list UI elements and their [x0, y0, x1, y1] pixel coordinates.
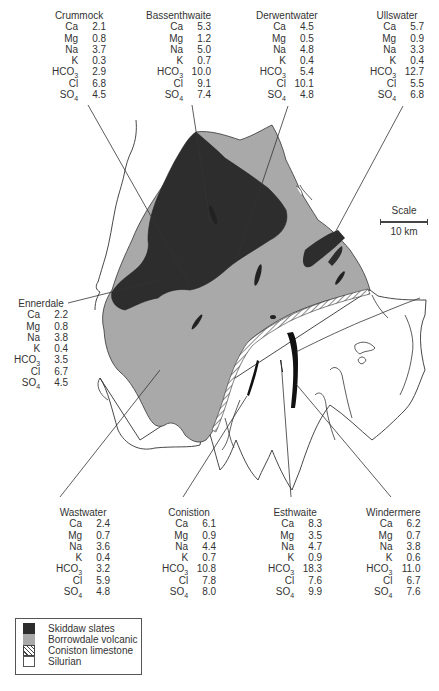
- ca-value: 6.2: [400, 518, 420, 529]
- na-value: 5.0: [191, 44, 211, 55]
- na-value: 4.7: [302, 541, 322, 552]
- so4-value: 4.8: [294, 89, 314, 100]
- na-value: 4.4: [196, 541, 216, 552]
- na-value: 3.8: [48, 332, 68, 343]
- k-value: 0.6: [400, 552, 420, 563]
- legend-item-borrowdale: Borrowdale volcanic: [23, 634, 141, 645]
- station-name: Derwentwater: [256, 10, 318, 21]
- hco3-value: 3.5: [48, 354, 68, 365]
- ca-value: 8.3: [302, 518, 322, 529]
- mg-value: 0.9: [196, 530, 216, 541]
- cl-value: 5.9: [90, 575, 110, 586]
- station-bassenthwaite: Bassenthwaite Ca5.3 Mg1.2 Na5.0 K0.7 HCO…: [146, 10, 211, 100]
- na-value: 3.6: [90, 541, 110, 552]
- station-name: Conistion: [162, 507, 216, 518]
- mg-value: 0.7: [90, 530, 110, 541]
- station-crummock: Crummock Ca2.1 Mg0.8 Na3.7 K0.3 HCO32.9 …: [52, 10, 106, 100]
- hco3-value: 2.9: [86, 66, 106, 77]
- mg-value: 0.8: [86, 33, 106, 44]
- k-value: 0.7: [196, 552, 216, 563]
- ca-value: 2.2: [48, 309, 68, 320]
- ca-value: 2.4: [90, 518, 110, 529]
- hco3-value: 10.0: [191, 66, 211, 77]
- station-ullswater: Ullswater Ca5.7 Mg0.9 Na3.3 K0.4 HCO312.…: [370, 10, 424, 100]
- cl-value: 6.8: [86, 78, 106, 89]
- k-value: 0.4: [90, 552, 110, 563]
- cl-value: 6.7: [48, 366, 68, 377]
- so4-value: 4.5: [48, 377, 68, 388]
- hco3-value: 3.2: [90, 563, 110, 574]
- map-legend: Skiddaw slates Borrowdale volcanic Conis…: [15, 618, 142, 675]
- mg-value: 0.9: [404, 33, 424, 44]
- ca-value: 5.3: [191, 21, 211, 32]
- mg-value: 0.8: [48, 321, 68, 332]
- cl-value: 6.7: [400, 575, 420, 586]
- hco3-value: 5.4: [294, 66, 314, 77]
- scale-title: Scale: [374, 205, 434, 216]
- so4-value: 4.5: [86, 89, 106, 100]
- hatched-swatch-icon: [23, 645, 35, 656]
- ca-value: 2.1: [86, 21, 106, 32]
- station-derwentwater: Derwentwater Ca4.5 Mg0.5 Na4.8 K0.4 HCO3…: [256, 10, 318, 100]
- ca-value: 5.7: [404, 21, 424, 32]
- legend-item-skiddaw: Skiddaw slates: [23, 623, 141, 634]
- grey-fill-swatch-icon: [23, 634, 35, 645]
- mg-value: 0.5: [294, 33, 314, 44]
- k-value: 0.9: [302, 552, 322, 563]
- k-value: 0.4: [294, 55, 314, 66]
- leader-wastwater: [60, 370, 160, 497]
- scale-bar: [380, 219, 428, 225]
- mg-value: 0.7: [400, 530, 420, 541]
- station-name: Crummock: [52, 10, 106, 21]
- so4-value: 4.8: [90, 586, 110, 597]
- ca-value: 4.5: [294, 21, 314, 32]
- station-wastwater: Wastwater Ca2.4 Mg0.7 Na3.6 K0.4 HCO33.2…: [56, 507, 110, 597]
- station-name: Bassenthwaite: [146, 10, 211, 21]
- station-name: Esthwaite: [268, 507, 322, 518]
- station-name: Windermere: [366, 507, 420, 518]
- cl-value: 7.8: [196, 575, 216, 586]
- so4-value: 9.9: [302, 586, 322, 597]
- hco3-value: 10.8: [196, 563, 216, 574]
- na-value: 3.3: [404, 44, 424, 55]
- white-swatch-icon: [23, 656, 35, 667]
- so4-value: 6.8: [404, 89, 424, 100]
- na-value: 3.7: [86, 44, 106, 55]
- cl-value: 10.1: [294, 78, 314, 89]
- hco3-value: 11.0: [400, 563, 420, 574]
- hco3-value: 12.7: [404, 66, 424, 77]
- dark-fill-swatch-icon: [23, 623, 35, 634]
- cl-value: 9.1: [191, 78, 211, 89]
- scale-distance: 10 km: [374, 226, 434, 237]
- station-name: Wastwater: [56, 507, 110, 518]
- so4-value: 7.4: [191, 89, 211, 100]
- hco3-value: 18.3: [302, 563, 322, 574]
- station-conistion: Conistion Ca6.1 Mg0.9 Na4.4 K0.7 HCO310.…: [162, 507, 216, 597]
- station-name: Ullswater: [370, 10, 424, 21]
- na-value: 4.8: [294, 44, 314, 55]
- station-ennerdale: Ennerdale Ca2.2 Mg0.8 Na3.8 K0.4 HCO33.5…: [14, 298, 68, 388]
- cl-value: 5.5: [404, 78, 424, 89]
- k-value: 0.7: [191, 55, 211, 66]
- legend-item-coniston: Coniston limestone: [23, 645, 141, 656]
- k-value: 0.4: [48, 343, 68, 354]
- so4-value: 7.6: [400, 586, 420, 597]
- station-esthwaite: Esthwaite Ca8.3 Mg3.5 Na4.7 K0.9 HCO318.…: [268, 507, 322, 597]
- k-value: 0.4: [404, 55, 424, 66]
- station-windermere: Windermere Ca6.2 Mg0.7 Na3.8 K0.6 HCO311…: [366, 507, 420, 597]
- mg-value: 1.2: [191, 33, 211, 44]
- na-value: 3.8: [400, 541, 420, 552]
- so4-value: 8.0: [196, 586, 216, 597]
- station-name: Ennerdale: [14, 298, 68, 309]
- k-value: 0.3: [86, 55, 106, 66]
- cl-value: 7.6: [302, 575, 322, 586]
- ca-value: 6.1: [196, 518, 216, 529]
- scale-indicator: Scale 10 km: [374, 205, 434, 237]
- mg-value: 3.5: [302, 530, 322, 541]
- legend-item-silurian: Silurian: [23, 656, 141, 667]
